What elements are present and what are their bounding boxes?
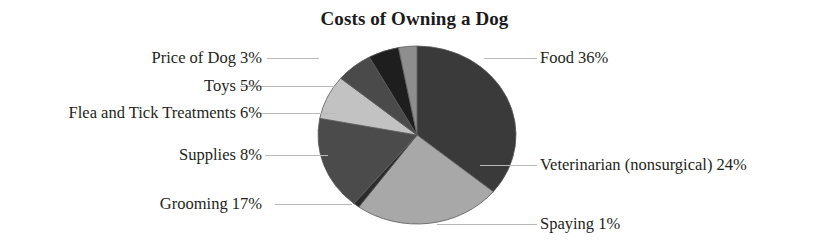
pie-chart-graphic xyxy=(318,46,516,224)
leader-line-flea-tick xyxy=(257,113,336,114)
chart-title: Costs of Owning a Dog xyxy=(0,8,829,30)
leader-line-spaying xyxy=(437,224,537,225)
leader-line-food xyxy=(484,58,537,59)
pie-svg xyxy=(318,46,516,224)
leader-line-supplies xyxy=(265,155,328,156)
slice-label-food: Food 36% xyxy=(540,50,608,67)
slice-label-grooming: Grooming 17% xyxy=(160,196,262,213)
leader-line-grooming xyxy=(275,204,352,205)
slice-label-supplies: Supplies 8% xyxy=(179,147,262,164)
slice-label-veterinarian: Veterinarian (nonsurgical) 24% xyxy=(540,157,747,174)
pie-slice-group xyxy=(318,46,516,224)
leader-line-veterinarian xyxy=(480,165,537,166)
slice-label-flea-and-tick-treatments: Flea and Tick Treatments 6% xyxy=(69,105,262,122)
pie-chart-figure: Costs of Owning a Dog Price of Dog 3% To… xyxy=(0,0,829,250)
leader-line-price-of-dog xyxy=(267,58,319,59)
slice-label-spaying: Spaying 1% xyxy=(540,216,620,233)
slice-label-price-of-dog: Price of Dog 3% xyxy=(152,50,262,67)
slice-label-toys: Toys 5% xyxy=(204,78,262,95)
